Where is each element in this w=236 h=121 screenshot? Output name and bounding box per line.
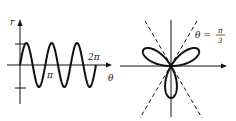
- r-axis-label: r: [10, 17, 15, 27]
- angle-label-numerator: π: [217, 27, 223, 35]
- theta-axis-arrow-icon: [106, 63, 112, 68]
- polar-axis-arrow-icon: [221, 64, 227, 69]
- angle-label-lhs: θ =: [195, 30, 211, 40]
- x-tick-label-pi: π: [46, 70, 54, 80]
- cartesian-graph: r θ π 2π: [7, 17, 114, 104]
- angle-label-denominator: 3: [218, 37, 223, 45]
- r-axis-arrow-icon: [18, 19, 23, 26]
- theta-axis-label: θ: [108, 73, 114, 83]
- x-tick-label-2pi: 2π: [87, 52, 101, 62]
- figure-canvas: r θ π 2π θ = π 3: [0, 0, 236, 121]
- polar-graph: θ = π 3: [120, 20, 227, 118]
